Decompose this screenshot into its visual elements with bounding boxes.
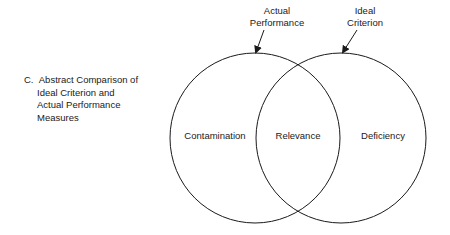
- caption-line-3: Actual Performance: [24, 99, 138, 112]
- ideal-criterion-label-line1: Ideal: [335, 5, 395, 17]
- actual-performance-label-line1: Actual: [242, 5, 312, 17]
- relevance-label: Relevance: [265, 130, 331, 142]
- contamination-label: Contamination: [175, 130, 255, 142]
- caption-letter: C.: [24, 74, 34, 85]
- actual-performance-label-line2: Performance: [242, 17, 312, 29]
- ideal-criterion-arrow: [343, 30, 357, 52]
- ideal-criterion-label: Ideal Criterion: [335, 5, 395, 28]
- actual-performance-label: Actual Performance: [242, 5, 312, 28]
- figure-caption: C. Abstract Comparison of Ideal Criterio…: [24, 74, 138, 124]
- deficiency-label: Deficiency: [348, 130, 418, 142]
- ideal-criterion-label-line2: Criterion: [335, 17, 395, 29]
- actual-performance-arrow: [256, 30, 264, 52]
- caption-line-4: Measures: [24, 112, 138, 125]
- caption-line-1: Abstract Comparison of: [39, 74, 138, 85]
- caption-line-2: Ideal Criterion and: [24, 87, 138, 100]
